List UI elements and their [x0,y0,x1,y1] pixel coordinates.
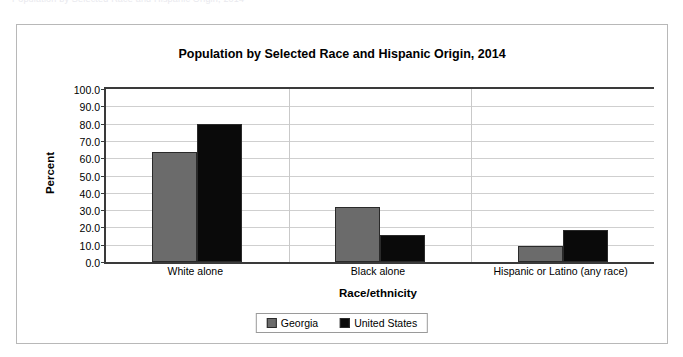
legend-item-united-states: United States [340,317,417,329]
x-axis-tick-label: White alone [168,265,223,277]
bar-united-states-2 [563,230,608,262]
y-axis-tick: 30.0 [80,201,106,219]
y-axis-tick: 40.0 [80,184,106,202]
chart-legend: GeorgiaUnited States [256,313,428,333]
y-axis-tick: 20.0 [80,218,106,236]
clipped-header-strip: Population by Selected Race and Hispanic… [0,0,683,13]
x-axis-tick-label: Black alone [351,265,405,277]
y-axis-tick: 80.0 [80,115,106,133]
y-axis-tick-label: 90.0 [80,101,106,113]
bar-series-group [106,89,654,262]
y-axis-tick: 70.0 [80,132,106,150]
legend-item-georgia: Georgia [267,317,318,329]
y-axis-tick: 0.0 [85,253,106,271]
y-axis-tick-label: 70.0 [80,136,106,148]
y-axis-tick: 60.0 [80,149,106,167]
bar-georgia-2 [518,246,563,262]
legend-label: United States [354,317,417,329]
x-axis-title: Race/ethnicity [104,287,652,299]
y-axis-tick: 50.0 [80,167,106,185]
legend-swatch [340,318,350,328]
chart-title: Population by Selected Race and Hispanic… [17,47,667,61]
y-axis-tick-label: 10.0 [80,240,106,252]
bar-united-states-0 [197,124,242,262]
y-axis-tick-label: 50.0 [80,171,106,183]
legend-label: Georgia [281,317,318,329]
x-axis-tick-label: Hispanic or Latino (any race) [494,265,628,277]
y-axis-tick-label: 30.0 [80,205,106,217]
y-axis-tick-label: 60.0 [80,153,106,165]
y-axis-tick-label: 80.0 [80,119,106,131]
y-axis-tick: 100.0 [74,80,106,98]
bar-georgia-1 [335,207,380,262]
x-axis-tick-labels: White aloneBlack aloneHispanic or Latino… [104,265,652,283]
y-axis-title: Percent [44,152,56,194]
plot-area: 0.010.020.030.040.050.060.070.080.090.01… [104,87,654,264]
bar-united-states-1 [380,235,425,263]
y-axis-tick-label: 40.0 [80,188,106,200]
clipped-header-text: Population by Selected Race and Hispanic… [12,0,244,4]
legend-swatch [267,318,277,328]
y-axis-tick-label: 20.0 [80,222,106,234]
y-axis-tick-label: 100.0 [74,84,106,96]
chart-frame: Population by Selected Race and Hispanic… [16,24,668,344]
y-axis-tick: 90.0 [80,97,106,115]
y-axis-tick-mark [101,262,106,263]
y-axis-tick: 10.0 [80,236,106,254]
y-axis-tick-label: 0.0 [85,257,106,269]
bar-georgia-0 [152,152,197,262]
